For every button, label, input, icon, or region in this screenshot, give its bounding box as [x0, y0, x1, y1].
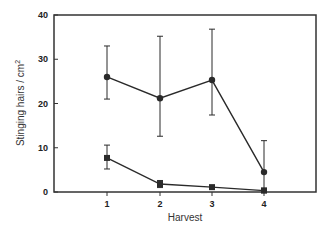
- data-point-circle: [209, 77, 215, 83]
- series-squares: [104, 145, 267, 194]
- data-point-circle: [157, 95, 163, 101]
- data-series: [104, 29, 267, 194]
- data-point-square: [157, 181, 163, 187]
- x-axis-label: Harvest: [168, 212, 203, 223]
- y-axis-label-group: Stinging hairs / cm2: [14, 60, 26, 146]
- x-tick-label: 4: [261, 199, 266, 209]
- x-axis: 1234: [104, 192, 266, 209]
- plot-frame: [54, 15, 316, 192]
- data-point-square: [104, 155, 110, 161]
- series-line: [107, 77, 264, 172]
- y-tick-label: 10: [38, 143, 48, 153]
- y-tick-label: 30: [38, 54, 48, 64]
- data-point-square: [209, 184, 215, 190]
- y-tick-label: 0: [43, 187, 48, 197]
- x-tick-label: 1: [104, 199, 109, 209]
- y-axis-label: Stinging hairs / cm2: [14, 60, 26, 146]
- series-line: [107, 158, 264, 191]
- x-tick-label: 2: [157, 199, 162, 209]
- chart: 010203040 1234 Harvest Stinging hairs / …: [0, 0, 331, 229]
- y-tick-label: 20: [38, 99, 48, 109]
- x-tick-label: 3: [209, 199, 214, 209]
- data-point-square: [261, 188, 267, 194]
- y-tick-label: 40: [38, 10, 48, 20]
- data-point-circle: [104, 74, 110, 80]
- y-axis: 010203040: [38, 10, 58, 197]
- series-circles: [104, 29, 267, 190]
- data-point-circle: [261, 169, 267, 175]
